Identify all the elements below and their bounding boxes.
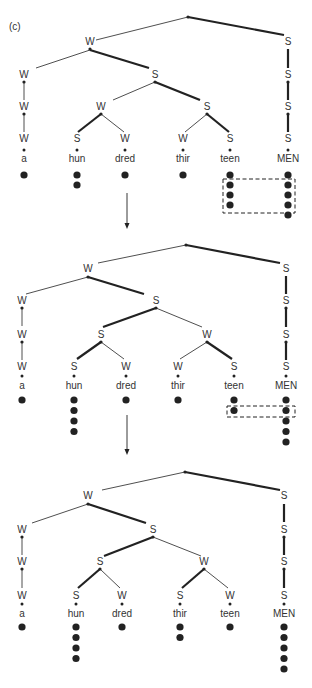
weak-branch bbox=[26, 277, 88, 294]
grid-beat-dot bbox=[280, 623, 287, 630]
grid-beat-dot bbox=[284, 201, 291, 208]
weak-branch bbox=[98, 245, 186, 263]
weak-node-label: W bbox=[199, 556, 209, 567]
strong-branch bbox=[188, 17, 284, 35]
syllable-label: dred bbox=[112, 608, 132, 619]
node-dot bbox=[286, 112, 289, 115]
grid-beat-dot bbox=[282, 438, 289, 445]
grid-beat-dot bbox=[226, 623, 233, 630]
node-dot bbox=[284, 340, 287, 343]
grid-beat-dot bbox=[230, 396, 237, 403]
node-dot bbox=[151, 535, 154, 538]
weak-node-label: W bbox=[17, 295, 27, 306]
grid-beat-dot bbox=[122, 396, 129, 403]
grid-beat-dot bbox=[179, 171, 186, 178]
strong-node-label: S bbox=[283, 263, 290, 274]
syllable-dot bbox=[179, 603, 182, 606]
strong-branch bbox=[78, 114, 101, 132]
weak-branch bbox=[113, 82, 155, 100]
weak-node-label: W bbox=[17, 556, 27, 567]
syllable-dot bbox=[177, 375, 180, 378]
strong-node-label: S bbox=[177, 590, 184, 601]
grid-beat-dot bbox=[70, 417, 77, 424]
syllable-label: a bbox=[21, 153, 27, 164]
grid-beat-dot bbox=[226, 191, 233, 198]
grid-beat-dot bbox=[280, 634, 287, 641]
syllable-label: a bbox=[19, 608, 25, 619]
weak-node-label: W bbox=[85, 36, 95, 47]
strong-node-label: S bbox=[71, 361, 78, 372]
strong-branch bbox=[103, 308, 156, 327]
grid-beat-dot bbox=[18, 623, 25, 630]
grid-beat-dot bbox=[284, 191, 291, 198]
strong-node-label: S bbox=[281, 490, 288, 501]
syllable-dot bbox=[76, 149, 79, 152]
grid-beat-dot bbox=[70, 396, 77, 403]
grid-beat-dot bbox=[230, 407, 237, 414]
grid-beat-dot bbox=[18, 396, 25, 403]
syllable-dot bbox=[229, 603, 232, 606]
node-dot bbox=[184, 243, 187, 246]
strong-node-label: S bbox=[152, 69, 159, 80]
strong-node-label: S bbox=[285, 133, 292, 144]
weak-node-label: W bbox=[17, 361, 27, 372]
strong-node-label: S bbox=[285, 36, 292, 47]
weak-branch bbox=[36, 50, 90, 68]
node-dot bbox=[22, 112, 25, 115]
grid-beat-dot bbox=[118, 623, 125, 630]
weak-branch bbox=[96, 17, 188, 40]
strong-node-label: S bbox=[285, 101, 292, 112]
strong-node-label: S bbox=[97, 556, 104, 567]
grid-beat-dot bbox=[72, 623, 79, 630]
strong-node-label: S bbox=[285, 69, 292, 80]
weak-node-label: W bbox=[117, 590, 127, 601]
node-dot bbox=[205, 112, 208, 115]
node-dot bbox=[183, 470, 186, 473]
weak-node-label: W bbox=[17, 524, 27, 535]
weak-branch bbox=[100, 569, 120, 588]
node-dot bbox=[88, 47, 91, 50]
syllable-dot bbox=[23, 149, 26, 152]
node-dot bbox=[202, 567, 205, 570]
grid-beat-dot bbox=[282, 417, 289, 424]
syllable-dot bbox=[21, 375, 24, 378]
grid-beat-dot bbox=[226, 181, 233, 188]
strong-branch bbox=[104, 537, 153, 556]
weak-branch bbox=[102, 472, 185, 490]
grid-beat-dot bbox=[280, 665, 287, 672]
weak-branch bbox=[204, 569, 228, 588]
syllable-dot bbox=[124, 149, 127, 152]
strong-node-label: S bbox=[150, 524, 157, 535]
strong-node-label: S bbox=[204, 101, 211, 112]
strong-branch bbox=[207, 114, 229, 132]
node-dot bbox=[282, 535, 285, 538]
syllable-label: hun bbox=[66, 380, 83, 391]
syllable-label: hun bbox=[69, 153, 86, 164]
syllable-label: a bbox=[19, 380, 25, 391]
weak-branch bbox=[101, 342, 124, 359]
strong-branch bbox=[88, 504, 146, 523]
arrow-down-icon bbox=[125, 223, 130, 229]
syllable-label: thir bbox=[176, 153, 191, 164]
syllable-label: MEN bbox=[277, 153, 299, 164]
strong-node-label: S bbox=[283, 329, 290, 340]
weak-branch bbox=[185, 114, 207, 132]
grid-beat-dot bbox=[280, 644, 287, 651]
node-dot bbox=[153, 80, 156, 83]
grid-beat-dot bbox=[72, 655, 79, 662]
node-dot bbox=[20, 535, 23, 538]
syllable-dot bbox=[21, 603, 24, 606]
weak-node-label: W bbox=[96, 101, 106, 112]
weak-node-label: W bbox=[83, 490, 93, 501]
grid-beat-dot bbox=[280, 655, 287, 662]
grid-beat-dot bbox=[72, 644, 79, 651]
weak-node-label: W bbox=[202, 329, 212, 340]
syllable-dot bbox=[287, 149, 290, 152]
weak-node-label: W bbox=[120, 133, 130, 144]
strong-branch bbox=[185, 472, 280, 490]
strong-branch bbox=[88, 277, 144, 294]
syllable-dot bbox=[125, 375, 128, 378]
node-dot bbox=[86, 275, 89, 278]
weak-node-label: W bbox=[83, 263, 93, 274]
node-dot bbox=[22, 80, 25, 83]
